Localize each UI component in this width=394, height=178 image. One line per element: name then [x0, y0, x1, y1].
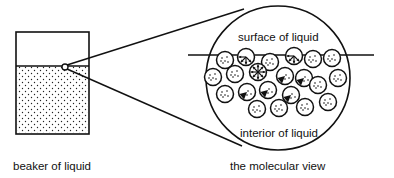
molecule [283, 87, 300, 104]
molecule [324, 50, 341, 67]
molecule [249, 101, 266, 118]
molecule [330, 70, 347, 87]
molecule [205, 69, 222, 86]
molecule [271, 100, 288, 117]
molecule [217, 86, 234, 103]
molecule [305, 51, 322, 68]
molecular-view-label: the molecular view [230, 160, 326, 172]
molecule [250, 64, 267, 81]
molecule [260, 82, 277, 99]
magnifier-source-circle [62, 64, 68, 70]
liquid-fill [17, 66, 88, 133]
beaker [16, 32, 89, 134]
molecule [227, 66, 244, 83]
molecule [297, 99, 314, 116]
molecule [286, 48, 303, 65]
molecule [239, 84, 256, 101]
molecule [310, 77, 327, 94]
interior-label: interior of liquid [240, 127, 318, 139]
beaker-label: beaker of liquid [13, 160, 91, 172]
molecule [320, 94, 337, 111]
surface-label: surface of liquid [238, 31, 319, 43]
liquid-surface-diagram: surface of liquid interior of liquid bea… [0, 0, 394, 178]
molecule [238, 49, 255, 66]
molecule [277, 68, 294, 85]
